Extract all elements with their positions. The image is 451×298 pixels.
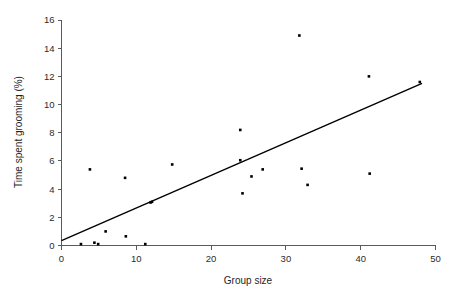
- x-tick-label: 40: [355, 253, 366, 264]
- data-point: [306, 184, 309, 187]
- x-tick-label: 20: [206, 253, 217, 264]
- data-point: [239, 159, 242, 162]
- scatter-plot-figure: 0246810121416 01020304050 Group size Tim…: [0, 0, 451, 298]
- x-tick-label: 0: [59, 253, 64, 264]
- regression-line: [62, 83, 423, 240]
- data-point: [250, 175, 253, 178]
- data-point: [80, 243, 83, 246]
- chart-canvas: 0246810121416 01020304050 Group size Tim…: [0, 0, 451, 298]
- x-tick-label: 50: [430, 253, 441, 264]
- data-point: [89, 168, 92, 171]
- data-point: [418, 81, 421, 84]
- data-point: [300, 167, 303, 170]
- data-point: [368, 75, 371, 78]
- data-point: [239, 129, 242, 132]
- data-point: [104, 230, 107, 233]
- y-tick-label: 0: [49, 240, 54, 251]
- data-point: [97, 243, 100, 246]
- x-tick-label: 30: [281, 253, 292, 264]
- y-axis-title: Time spent grooming (%): [13, 76, 24, 188]
- data-point: [298, 34, 301, 37]
- data-point: [151, 201, 154, 204]
- y-tick-label: 10: [44, 99, 55, 110]
- y-tick-label: 14: [44, 43, 55, 54]
- data-point: [125, 235, 128, 238]
- y-tick-label: 4: [49, 184, 54, 195]
- data-point: [171, 163, 174, 166]
- y-tick-label: 8: [49, 127, 54, 138]
- y-tick-label: 16: [44, 14, 55, 25]
- data-point: [144, 243, 147, 246]
- y-tick-label: 12: [44, 71, 55, 82]
- data-point: [241, 192, 244, 195]
- x-axis-ticks: 01020304050: [59, 246, 441, 264]
- data-point: [368, 172, 371, 175]
- y-tick-label: 2: [49, 212, 54, 223]
- data-point: [261, 168, 264, 171]
- y-tick-label: 6: [49, 155, 54, 166]
- data-points-group: [80, 34, 421, 245]
- y-axis-ticks: 0246810121416: [44, 14, 62, 251]
- x-tick-label: 10: [131, 253, 142, 264]
- data-point: [93, 241, 96, 244]
- data-point: [124, 177, 127, 180]
- x-axis-title: Group size: [224, 275, 273, 286]
